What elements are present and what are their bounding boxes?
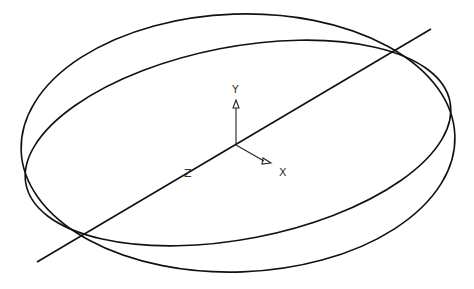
wireframe-svg: Y X Z	[0, 0, 474, 289]
z-axis-label: Z	[184, 167, 192, 180]
y-axis-label: Y	[231, 83, 239, 96]
z-axis-line	[37, 29, 431, 262]
diagram-canvas: Y X Z	[0, 0, 474, 289]
x-axis-label: X	[279, 166, 287, 179]
x-axis-arrow	[236, 145, 264, 161]
y-arrowhead-icon	[233, 100, 239, 108]
